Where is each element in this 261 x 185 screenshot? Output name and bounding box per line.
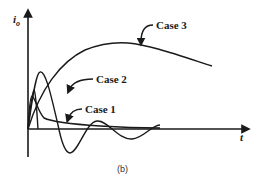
case-2-leader-arrow [69, 79, 93, 90]
case-1-leader-arrow [68, 109, 82, 119]
case-2-label: Case 2 [96, 73, 127, 85]
transient-response-figure: io t Case 3 Case 2 Case 1 (b) [0, 0, 261, 185]
x-axis-label: t [240, 131, 244, 143]
case-1-label: Case 1 [85, 103, 116, 115]
y-axis-label: io [13, 13, 20, 28]
case-3-leader-arrow [141, 25, 153, 42]
case-3-label: Case 3 [156, 19, 187, 31]
figure-caption: (b) [117, 164, 128, 174]
